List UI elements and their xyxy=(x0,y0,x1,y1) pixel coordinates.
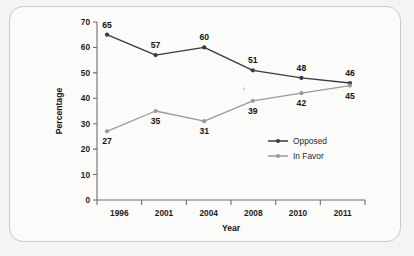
data-point xyxy=(299,76,303,80)
data-point xyxy=(154,53,158,57)
line-chart: 010203040506070199620012004200820102011Y… xyxy=(10,7,401,242)
y-axis-tick-label: 40 xyxy=(81,93,91,103)
legend-label: In Favor xyxy=(293,151,324,161)
data-point-label: 57 xyxy=(151,40,161,50)
data-point xyxy=(105,33,109,37)
scan-artifact-dot xyxy=(243,88,246,91)
data-point-label: 27 xyxy=(102,136,112,146)
x-axis-title: Year xyxy=(222,223,241,233)
data-point-label: 39 xyxy=(248,106,258,116)
legend-swatch-marker xyxy=(276,154,280,158)
chart-panel: 010203040506070199620012004200820102011Y… xyxy=(9,6,401,242)
series-line-in-favor xyxy=(107,86,350,132)
data-point xyxy=(154,109,158,113)
x-axis-tick-label: 2001 xyxy=(155,208,174,218)
x-axis-tick-label: 1996 xyxy=(110,208,129,218)
y-axis-tick-label: 10 xyxy=(81,170,91,180)
y-axis-tick-label: 60 xyxy=(81,42,91,52)
y-axis-tick-label: 0 xyxy=(85,195,90,205)
y-axis-tick-label: 50 xyxy=(81,68,91,78)
y-axis-tick-label: 20 xyxy=(81,144,91,154)
y-axis-title: Percentage xyxy=(54,88,64,135)
data-point-label: 31 xyxy=(199,126,209,136)
data-point xyxy=(251,68,255,72)
x-axis-tick-label: 2011 xyxy=(334,208,352,218)
data-point-label: 60 xyxy=(199,32,209,42)
x-axis-tick-label: 2008 xyxy=(244,208,263,218)
data-point xyxy=(202,45,206,49)
data-point-label: 48 xyxy=(297,63,307,73)
x-axis-tick-label: 2010 xyxy=(289,208,308,218)
data-point-label: 65 xyxy=(102,20,112,30)
data-point-label: 46 xyxy=(345,68,355,78)
data-point xyxy=(251,99,255,103)
data-point xyxy=(105,129,109,133)
legend-swatch-marker xyxy=(276,139,280,143)
data-point-label: 51 xyxy=(248,55,258,65)
legend-label: Opposed xyxy=(293,136,327,146)
series-line-opposed xyxy=(107,35,350,83)
x-axis-tick-label: 2004 xyxy=(199,208,218,218)
data-point xyxy=(299,91,303,95)
data-point xyxy=(202,119,206,123)
y-axis-tick-label: 70 xyxy=(81,17,91,27)
data-point-label: 42 xyxy=(297,98,307,108)
data-point-label: 45 xyxy=(345,91,355,101)
data-point xyxy=(348,83,352,87)
data-point-label: 35 xyxy=(151,116,161,126)
y-axis-tick-label: 30 xyxy=(81,119,91,129)
